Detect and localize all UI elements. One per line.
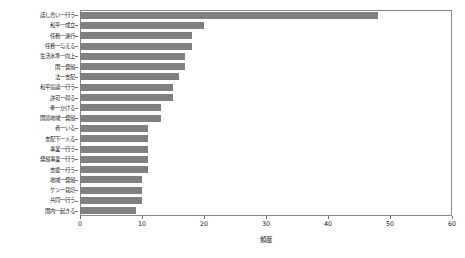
bar: [80, 12, 378, 19]
y-axis-tick-label: 支配下一入る: [0, 134, 78, 144]
y-axis-tick-mark: [75, 201, 78, 202]
y-axis-tick-mark: [75, 98, 78, 99]
y-axis-tick-mark: [75, 87, 78, 88]
y-axis-label-text: 者一いる: [55, 125, 75, 131]
y-axis-tick-mark: [75, 159, 78, 160]
bar: [80, 32, 192, 39]
x-axis-tick-mark: [390, 216, 391, 219]
x-axis-tick-label: 10: [138, 220, 146, 228]
bar: [80, 22, 204, 29]
y-axis-label-text: 事業一行う: [50, 146, 75, 152]
y-axis-label-text: 国境地域一発展: [40, 115, 75, 121]
y-axis-label-text: 話し合い一行う: [40, 12, 75, 18]
y-axis-tick-label: 共同一行う: [0, 195, 78, 205]
y-axis-label-text: 生活水準一向上: [40, 53, 75, 59]
y-axis-tick-label: 地域一発展: [0, 175, 78, 185]
bar: [80, 94, 173, 101]
y-axis-tick-label: 国内一起きる: [0, 206, 78, 216]
y-axis-tick-mark: [75, 170, 78, 171]
bar: [80, 166, 148, 173]
x-axis-title: 頻度: [80, 236, 452, 244]
bar-row: [80, 72, 452, 82]
y-axis-tick-mark: [75, 46, 78, 47]
y-axis-tick-label: 生活水準一向上: [0, 51, 78, 61]
y-axis-tick-mark: [75, 211, 78, 212]
x-axis-tick-label: 0: [78, 220, 82, 228]
y-axis-tick-label: 国境地域一発展: [0, 113, 78, 123]
x-axis-tick-mark: [266, 216, 267, 219]
y-axis-tick-mark: [75, 139, 78, 140]
y-axis-tick-mark: [75, 67, 78, 68]
bar-row: [80, 113, 452, 123]
x-axis-tick-mark: [328, 216, 329, 219]
bar-row: [80, 144, 452, 154]
bar-row: [80, 51, 452, 61]
y-axis-label-text: 国内一起きる: [45, 208, 75, 214]
y-axis-tick-label: 事業一行う: [0, 144, 78, 154]
y-axis-tick-mark: [75, 15, 78, 16]
y-axis-label-text: 国一発展: [55, 64, 75, 70]
y-axis-tick-label: 許可一得る: [0, 92, 78, 102]
y-axis-tick-mark: [75, 25, 78, 26]
y-axis-label-text: 地域一発展: [50, 177, 75, 183]
bar: [80, 84, 173, 91]
bar: [80, 73, 179, 80]
y-axis-tick-mark: [75, 36, 78, 37]
bar-row: [80, 61, 452, 71]
bar-row: [80, 164, 452, 174]
y-axis-label-text: 法一支配: [55, 74, 75, 80]
bar-row: [80, 154, 452, 164]
bar: [80, 187, 142, 194]
bar: [80, 115, 161, 122]
y-axis-tick-mark: [75, 56, 78, 57]
y-axis-label-text: 許可一得る: [50, 95, 75, 101]
bar: [80, 156, 148, 163]
bar: [80, 43, 192, 50]
y-axis-tick-label: 和平協議一行う: [0, 82, 78, 92]
y-axis-label-text: 発展事業一行う: [40, 156, 75, 162]
y-axis-tick-mark: [75, 190, 78, 191]
y-axis-label-text: 和平一成立: [50, 22, 75, 28]
y-axis-tick-label: 者一いる: [0, 123, 78, 133]
y-axis-label-text: 支配下一入る: [45, 136, 75, 142]
bar-row: [80, 103, 452, 113]
y-axis-tick-mark: [75, 180, 78, 181]
x-axis-tick-label: 60: [448, 220, 456, 228]
bar-row: [80, 31, 452, 41]
y-axis-category-labels: 話し合い一行う和平一成立任務一遂行任務一与える生活水準一向上国一発展法一支配和平…: [0, 10, 78, 216]
y-axis-tick-label: ケシ一栽培: [0, 185, 78, 195]
bar: [80, 53, 185, 60]
y-axis-tick-label: 国一発展: [0, 61, 78, 71]
y-axis-tick-label: 支援一行う: [0, 164, 78, 174]
bar-row: [80, 185, 452, 195]
bar-row: [80, 41, 452, 51]
y-axis-label-text: 任務一与える: [45, 43, 75, 49]
bar: [80, 197, 142, 204]
y-axis-tick-label: 任務一遂行: [0, 31, 78, 41]
x-axis-tick-label: 50: [386, 220, 394, 228]
bar: [80, 176, 142, 183]
x-axis-tick-mark: [204, 216, 205, 219]
bar-row: [80, 123, 452, 133]
bar-row: [80, 10, 452, 20]
x-axis-tick-label: 40: [324, 220, 332, 228]
y-axis-tick-mark: [75, 108, 78, 109]
y-axis-tick-label: 法一支配: [0, 72, 78, 82]
y-axis-label-text: 任務一遂行: [50, 33, 75, 39]
bar-row: [80, 134, 452, 144]
x-axis-tick-mark: [80, 216, 81, 219]
bar: [80, 104, 161, 111]
bar-row: [80, 195, 452, 205]
bar-row: [80, 175, 452, 185]
y-axis-tick-mark: [75, 118, 78, 119]
y-axis-label-text: 共同一行う: [50, 197, 75, 203]
bar-row: [80, 82, 452, 92]
bar: [80, 135, 148, 142]
y-axis-tick-label: 任務一与える: [0, 41, 78, 51]
x-axis-tick-label: 30: [262, 220, 270, 228]
bar-chart: 話し合い一行う和平一成立任務一遂行任務一与える生活水準一向上国一発展法一支配和平…: [0, 0, 465, 258]
x-axis-tick-label: 20: [200, 220, 208, 228]
bar-row: [80, 92, 452, 102]
bar-row: [80, 206, 452, 216]
y-axis-label-text: 和平協議一行う: [40, 84, 75, 90]
